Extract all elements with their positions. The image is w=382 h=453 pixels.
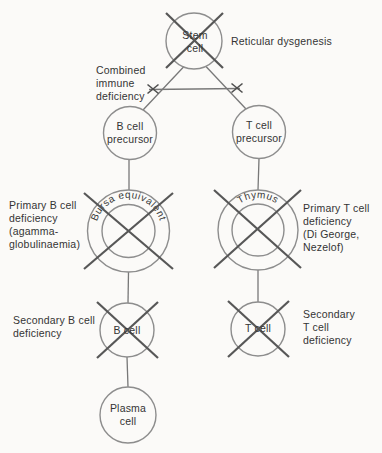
reticular-dysgenesis-label: Reticular dysgenesis — [231, 35, 332, 48]
primary-t-cell-deficiency-label: Primary T cell deficiency (Di George, Ne… — [303, 202, 370, 254]
immune-deficiency-diagram: Bursa equivalent Thymus — [0, 0, 382, 453]
primary-b-cell-deficiency-label: Primary B cell deficiency (agamma- globu… — [9, 199, 80, 251]
thymus-label-text: Thymus — [235, 189, 281, 206]
secondary-b-cell-deficiency-label: Secondary B cell deficiency — [13, 314, 95, 340]
thymus-curved-label: Thymus — [235, 189, 281, 206]
secondary-t-cell-deficiency-label: Secondary T cell deficiency — [303, 308, 355, 347]
combined-immune-deficiency-label: Combined immune deficiency — [96, 64, 145, 103]
b-cell-label: B cell — [97, 324, 157, 337]
t-cell-precursor-label: T cell precursor — [229, 119, 289, 145]
plasma-cell-label: Plasma cell — [98, 402, 158, 428]
connector-t-precursor-to-thymus — [258, 159, 259, 191]
connector-b-cell-to-plasma — [127, 357, 128, 387]
connector-stem-to-t-precursor — [206, 67, 246, 110]
b-cell-precursor-label: B cell precursor — [100, 120, 160, 146]
bursa-equivalent-curved-label: Bursa equivalent — [88, 189, 168, 222]
bursa-equivalent-label-text: Bursa equivalent — [88, 189, 168, 222]
stem-cell-label: Stem cell — [165, 29, 225, 55]
connector-bursa-to-b-cell — [128, 272, 129, 303]
t-cell-label: T cell — [228, 322, 288, 335]
connector-stem-to-b-precursor — [143, 67, 184, 111]
